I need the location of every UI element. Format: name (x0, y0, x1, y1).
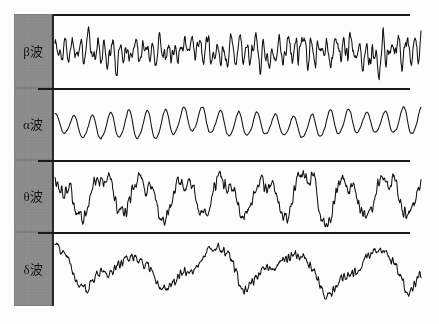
band-label-alpha: α波 (14, 88, 52, 160)
band-divider-0 (38, 88, 410, 90)
band-label-text-theta: θ波 (23, 190, 42, 203)
band-label-text-alpha: α波 (23, 118, 43, 131)
band-label-delta: δ波 (14, 232, 52, 306)
band-divider-2 (38, 232, 410, 234)
band-label-text-delta: δ波 (23, 263, 42, 276)
waveform-delta (52, 232, 424, 306)
band-divider-1 (38, 160, 410, 162)
band-row-beta: β波 (14, 14, 424, 88)
waveform-beta (52, 14, 424, 88)
band-label-text-beta: β波 (23, 45, 43, 58)
eeg-figure: β波α波θ波δ波 (0, 0, 439, 324)
waveform-theta (52, 160, 424, 232)
band-row-theta: θ波 (14, 160, 424, 232)
band-row-delta: δ波 (14, 232, 424, 306)
waveform-alpha (52, 88, 424, 160)
band-label-theta: θ波 (14, 160, 52, 232)
band-label-beta: β波 (14, 14, 52, 88)
band-row-alpha: α波 (14, 88, 424, 160)
